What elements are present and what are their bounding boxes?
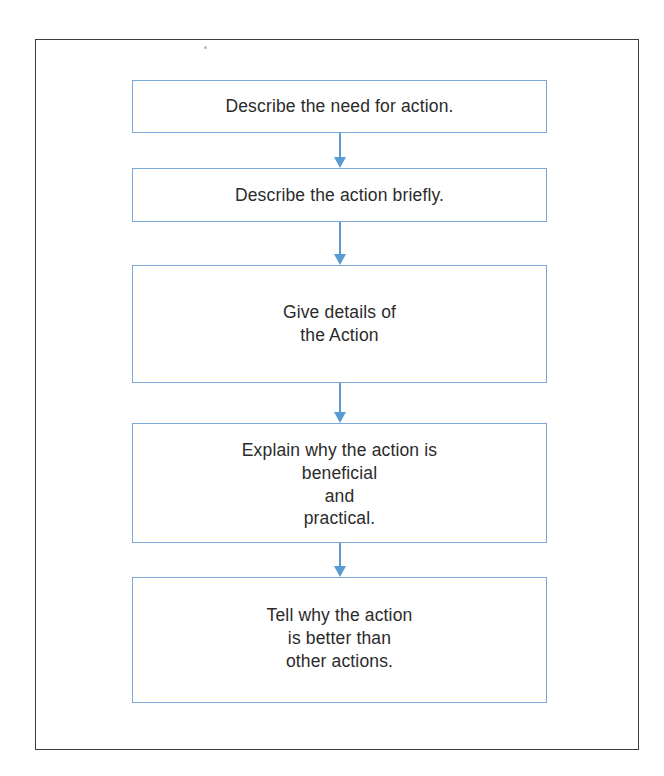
flow-node-step-1[interactable]: Describe the need for action. (132, 80, 547, 133)
arrow-shaft (339, 383, 341, 412)
flow-node-step-4-label: Explain why the action is beneficial and… (242, 439, 437, 530)
arrow-down-icon (334, 254, 346, 265)
arrow-shaft (339, 133, 341, 157)
arrow-shaft (339, 222, 341, 254)
arrow-down-icon (334, 566, 346, 577)
flow-node-step-5[interactable]: Tell why the action is better than other… (132, 577, 547, 703)
flow-node-step-4[interactable]: Explain why the action is beneficial and… (132, 423, 547, 543)
connector-arrow-1 (329, 133, 351, 168)
flow-node-step-1-label: Describe the need for action. (225, 95, 453, 118)
arrow-shaft (339, 543, 341, 566)
flow-node-step-3[interactable]: Give details of the Action (132, 265, 547, 383)
connector-arrow-2 (329, 222, 351, 265)
diagram-canvas: Describe the need for action. Describe t… (0, 0, 664, 776)
arrow-down-icon (334, 157, 346, 168)
arrow-down-icon (334, 412, 346, 423)
flow-node-step-3-label: Give details of the Action (283, 301, 396, 347)
scan-speck (204, 46, 207, 49)
flow-node-step-2-label: Describe the action briefly. (235, 184, 444, 207)
flow-node-step-5-label: Tell why the action is better than other… (267, 604, 413, 672)
connector-arrow-3 (329, 383, 351, 423)
flow-node-step-2[interactable]: Describe the action briefly. (132, 168, 547, 222)
connector-arrow-4 (329, 543, 351, 577)
